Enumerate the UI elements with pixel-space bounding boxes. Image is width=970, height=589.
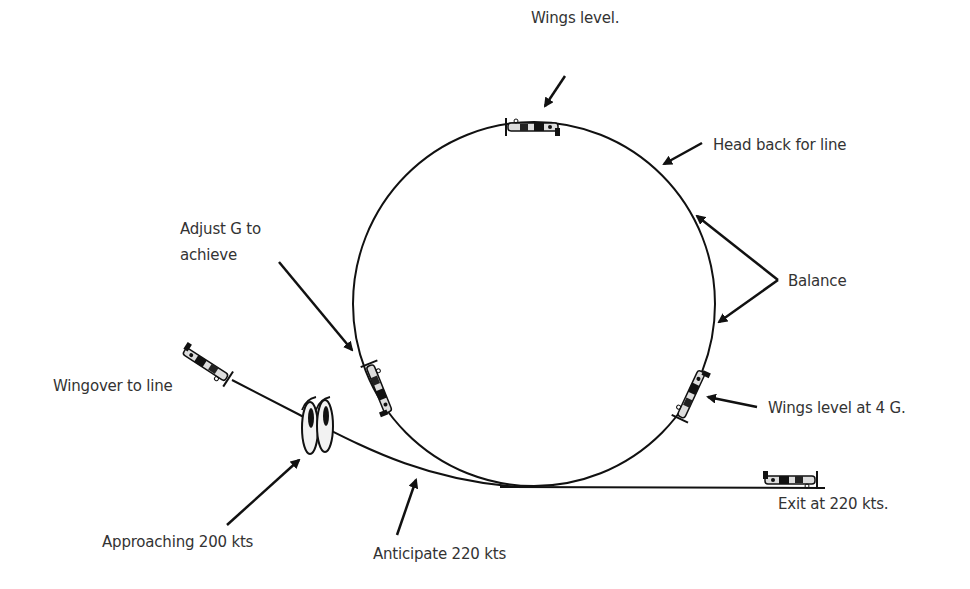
aircraft-icon-exit (763, 471, 817, 489)
arrow-balance-upper (697, 216, 778, 280)
label-adjust-g-line2: achieve (180, 245, 237, 265)
label-wings-level-top: Wings level. (531, 8, 619, 28)
label-exit: Exit at 220 kts. (778, 494, 888, 514)
label-head-back: Head back for line (713, 135, 846, 155)
arrow-approaching (227, 460, 299, 525)
arrow-adjust-g (279, 262, 352, 350)
label-anticipate: Anticipate 220 kts (373, 544, 506, 564)
aircraft-icon-loop-descending (672, 366, 711, 423)
loop-circle (353, 122, 715, 486)
label-balance: Balance (788, 271, 846, 291)
label-approaching: Approaching 200 kts (102, 532, 253, 552)
label-adjust-g-line1: Adjust G to (180, 219, 261, 239)
arrow-wings-level-4g (708, 397, 757, 407)
aircraft-icon-wingover (178, 342, 233, 387)
aircraft-icon-loop-top (506, 118, 560, 136)
loop-diagram: Wings level. Head back for line Adjust G… (0, 0, 970, 589)
label-wings-level-4g: Wings level at 4 G. (768, 398, 905, 418)
arrow-balance-lower (719, 280, 778, 322)
arrow-head-back (664, 143, 702, 164)
aircraft-icon-loop-entry (361, 360, 398, 417)
entry-track (232, 380, 520, 487)
exit-track (500, 487, 825, 488)
label-wingover: Wingover to line (53, 376, 173, 396)
arrow-wings-level-top (545, 76, 565, 106)
arrow-anticipate (397, 480, 416, 535)
eyes-icon (302, 397, 333, 454)
